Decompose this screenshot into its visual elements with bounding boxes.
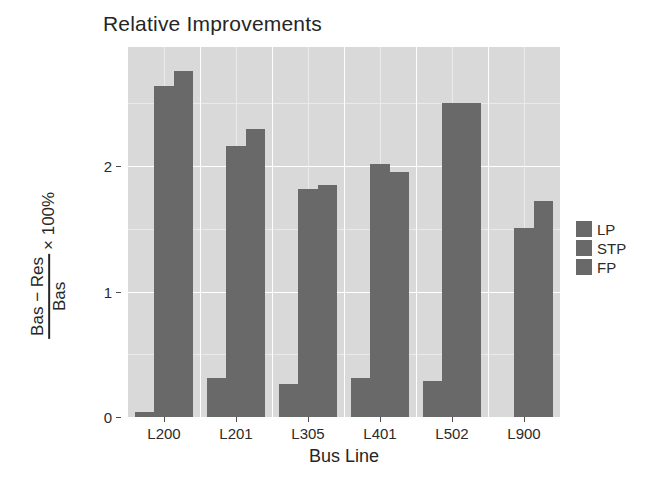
bar (246, 129, 265, 417)
legend-item-fp[interactable]: FP (576, 258, 654, 276)
chart-title: Relative Improvements (103, 12, 322, 36)
bar (514, 228, 533, 417)
bar (226, 146, 245, 417)
bar (207, 378, 226, 417)
y-axis-tick-mark (116, 292, 121, 293)
bar (423, 381, 442, 417)
plot-panel (128, 47, 560, 417)
x-axis-tick-mark (236, 417, 237, 422)
y-axis-tick-label: 2 (104, 158, 112, 175)
bar (462, 103, 481, 417)
x-axis-tick-label: L900 (507, 425, 540, 442)
legend-label: STP (597, 240, 626, 257)
bar (279, 384, 298, 417)
bar (174, 71, 193, 417)
bar (442, 103, 461, 417)
x-axis-tick-mark (164, 417, 165, 422)
y-axis-tick-label: 1 (104, 283, 112, 300)
legend-swatch-icon (576, 240, 592, 256)
bar (154, 86, 173, 417)
y-axis-suffix: × 100% (40, 191, 60, 249)
x-axis: L200L201L305L401L502L900 (128, 417, 560, 443)
y-axis-numerator: Bas − Res (30, 254, 49, 339)
legend-label: LP (597, 221, 615, 238)
y-axis-denominator: Bas (51, 278, 70, 313)
legend-label: FP (597, 259, 616, 276)
bar (370, 164, 389, 417)
bar-chart: Relative Improvements Bas − Res Bas × 10… (0, 0, 659, 493)
bar (390, 172, 409, 417)
x-axis-tick-label: L201 (219, 425, 252, 442)
x-axis-tick-label: L305 (291, 425, 324, 442)
legend: LPSTPFP (576, 220, 654, 277)
x-axis-tick-label: L200 (147, 425, 180, 442)
x-axis-tick-mark (380, 417, 381, 422)
y-axis-fraction: Bas − Res Bas (30, 254, 71, 339)
x-axis-title: Bus Line (128, 446, 560, 467)
legend-swatch-icon (576, 259, 592, 275)
bar (534, 201, 553, 417)
x-axis-tick-mark (452, 417, 453, 422)
y-axis: 012 (95, 47, 121, 417)
x-axis-tick-mark (524, 417, 525, 422)
bars-layer (128, 47, 560, 417)
bar (318, 185, 337, 417)
legend-swatch-icon (576, 221, 592, 237)
legend-item-lp[interactable]: LP (576, 220, 654, 238)
y-axis-tick-mark (116, 417, 121, 418)
y-axis-tick-label: 0 (104, 409, 112, 426)
x-axis-tick-mark (308, 417, 309, 422)
bar (351, 378, 370, 417)
bar (298, 189, 317, 417)
y-axis-tick-mark (116, 166, 121, 167)
x-axis-tick-label: L401 (363, 425, 396, 442)
x-axis-tick-label: L502 (435, 425, 468, 442)
y-axis-title: Bas − Res Bas × 100% (18, 150, 82, 380)
legend-item-stp[interactable]: STP (576, 239, 654, 257)
